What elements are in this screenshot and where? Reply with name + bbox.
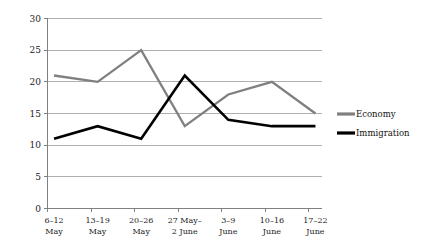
x-tick-label: 27 May–2 June — [168, 216, 202, 236]
chart-legend: EconomyImmigration — [337, 109, 410, 138]
x-axis-tick-labels: 6–12May13–19May20–26May27 May–2 June3–9J… — [44, 216, 327, 236]
y-tick-label: 25 — [30, 45, 42, 55]
y-tick-label: 10 — [30, 140, 42, 150]
x-tick-label: 13–19May — [85, 216, 109, 236]
legend-label-economy: Economy — [356, 109, 396, 119]
gridlines — [48, 19, 323, 209]
y-tick-label: 5 — [35, 172, 41, 182]
chart-canvas: 051015202530 6–12May13–19May20–26May27 M… — [0, 0, 423, 250]
y-tick-label: 0 — [35, 204, 41, 214]
x-tick-label: 10–16June — [260, 216, 284, 236]
x-tick-label: 3–9June — [218, 216, 238, 236]
series-line-economy — [54, 50, 315, 126]
data-series — [54, 50, 315, 139]
axes — [44, 19, 322, 213]
y-tick-label: 15 — [30, 109, 42, 119]
y-tick-label: 30 — [30, 14, 42, 24]
legend-label-immigration: Immigration — [356, 128, 410, 138]
x-tick-label: 17–22June — [303, 216, 327, 236]
y-tick-label: 20 — [30, 77, 42, 87]
x-tick-label: 20–26May — [129, 216, 153, 236]
y-axis-tick-labels: 051015202530 — [30, 14, 42, 214]
x-tick-label: 6–12May — [44, 216, 63, 236]
line-chart: 051015202530 6–12May13–19May20–26May27 M… — [0, 0, 423, 250]
